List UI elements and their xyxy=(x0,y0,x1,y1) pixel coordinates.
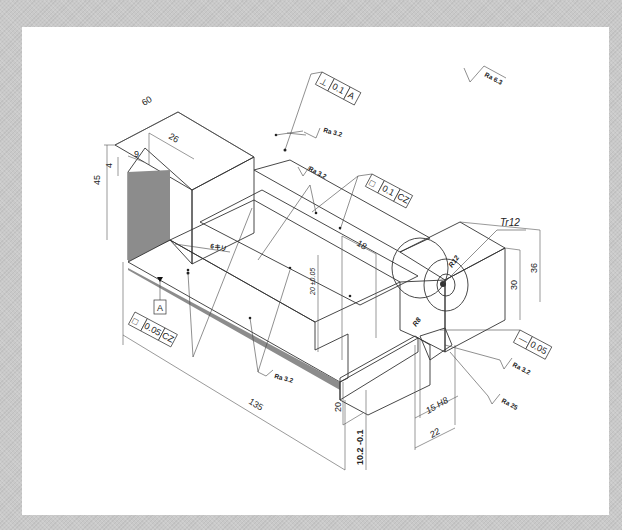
svg-text:Ra 3.2: Ra 3.2 xyxy=(512,361,533,376)
drill-note: 6キリ xyxy=(210,242,229,252)
roughness-check-icon xyxy=(304,128,320,138)
svg-text:Ra 3.2: Ra 3.2 xyxy=(323,126,344,138)
drawing-sheet: 60 26 9 4 45 18 20 ±0.05 36 30 135 20 10… xyxy=(22,27,609,515)
dim-135: 135 xyxy=(247,396,265,412)
gdt-frame-flatness-front: □ 0.05 CZ xyxy=(128,312,177,347)
dim-9: 9 xyxy=(134,149,139,159)
roughness-callout-1: Ra 3.2 xyxy=(275,126,344,138)
dim-36: 36 xyxy=(529,263,539,273)
dim-22: 22 xyxy=(427,426,442,440)
base-end-step xyxy=(340,336,430,415)
gdt-frame-flatness-top: □ 0.1 CZ xyxy=(365,174,412,208)
thread-label: Tr12 xyxy=(500,217,520,228)
radius-r8: R8 xyxy=(411,316,422,327)
roughness-check-icon xyxy=(488,394,500,404)
roughness-callout-2: Ra 3.2 xyxy=(258,165,328,260)
dim-4: 4 xyxy=(104,163,114,168)
svg-text:Ra 6.3: Ra 6.3 xyxy=(484,71,505,86)
svg-text:Ra 3.2: Ra 3.2 xyxy=(308,165,329,180)
boss-top xyxy=(400,222,505,280)
roughness-general: Ra 6.3 xyxy=(464,66,506,86)
dim-30: 30 xyxy=(509,280,519,290)
dim-26: 26 xyxy=(167,131,181,145)
dim-10-2: 10.2 -0.1 xyxy=(355,429,365,465)
gdt-frame-perpendicularity: ⊥ 0.1 A xyxy=(315,72,360,105)
isometric-part-drawing: 60 26 9 4 45 18 20 ±0.05 36 30 135 20 10… xyxy=(22,27,609,515)
notch-face xyxy=(420,328,452,360)
svg-text:Ra 3.2: Ra 3.2 xyxy=(274,372,295,384)
upright-left-lower xyxy=(128,170,170,262)
dim-18: 18 xyxy=(355,238,369,252)
cylinder-face xyxy=(424,259,468,311)
gdt-frame-straightness: — 0.05 xyxy=(513,330,551,359)
radius-r12: R12 xyxy=(447,254,460,269)
dim-20-tol: 20 ±0.05 xyxy=(309,268,316,296)
datum-a-label: A xyxy=(157,303,163,313)
roughness-check-icon xyxy=(258,370,273,376)
svg-text:Ra 25: Ra 25 xyxy=(501,397,520,412)
roughness-callout-3: Ra 3.2 xyxy=(249,270,295,384)
bore-hole xyxy=(437,274,455,296)
dim-60: 60 xyxy=(140,94,154,108)
dim-15h8: 15 H8 xyxy=(424,395,450,416)
dim-45: 45 xyxy=(92,175,102,185)
base-end-face xyxy=(340,338,418,400)
roughness-callout-5: Ra 25 xyxy=(450,352,519,411)
roughness-check-icon xyxy=(500,358,512,369)
roughness-callout-4: Ra 3.2 xyxy=(445,345,532,376)
base-top-surface xyxy=(170,200,400,322)
cylinder-body xyxy=(392,238,448,298)
dim-20-base: 20 xyxy=(333,402,343,412)
